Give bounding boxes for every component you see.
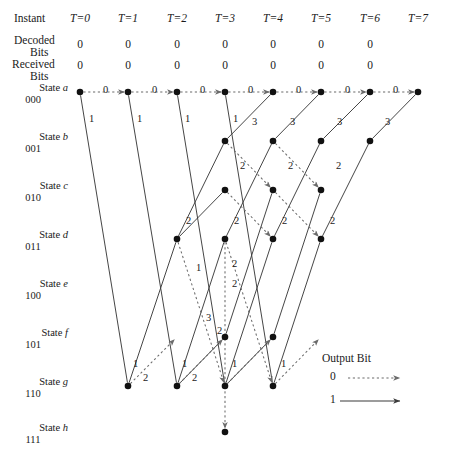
decoded-bit-5: 0 — [297, 38, 345, 50]
trellis-node[interactable] — [174, 383, 181, 390]
metric-label-32: 1 — [281, 358, 286, 369]
metric-label-25: 3 — [206, 312, 211, 323]
received-bit-1: 0 — [104, 59, 152, 71]
legend-title: Output Bit — [322, 352, 371, 364]
metric-label-9: 1 — [185, 113, 190, 124]
trellis-edge — [275, 94, 318, 138]
state-bits-d: 011 — [0, 241, 68, 253]
time-column-header-1: T=1 — [104, 12, 152, 24]
trellis-node[interactable] — [318, 187, 325, 194]
state-bits-f: 101 — [0, 339, 68, 351]
state-name-f: State f — [41, 327, 68, 338]
received-bit-2: 0 — [153, 59, 201, 71]
legend-label-1: 1 — [330, 393, 336, 405]
state-name-c: State c — [40, 180, 68, 191]
trellis-node[interactable] — [125, 89, 132, 96]
legend-label-0: 0 — [330, 370, 336, 382]
metric-label-29: 1 — [182, 358, 187, 369]
state-label-f: State f101 — [0, 327, 68, 351]
metric-label-4: 0 — [296, 84, 301, 95]
metric-label-5: 0 — [345, 84, 350, 95]
state-label-c: State c010 — [0, 180, 68, 204]
metric-label-2: 0 — [200, 84, 205, 95]
metric-label-23: 2 — [232, 258, 237, 269]
metric-label-12: 3 — [290, 116, 295, 127]
trellis-node[interactable] — [222, 334, 229, 341]
time-column-header-3: T=3 — [201, 12, 249, 24]
metric-label-31: 1 — [232, 358, 237, 369]
trellis-node[interactable] — [270, 187, 277, 194]
time-column-header-4: T=4 — [249, 12, 297, 24]
time-column-header-7: T=7 — [394, 12, 442, 24]
trellis-node[interactable] — [174, 89, 181, 96]
metric-label-18: 2 — [186, 215, 191, 226]
metric-label-22: 1 — [196, 262, 201, 273]
decoded-bit-6: 0 — [346, 38, 394, 50]
metric-label-16: 2 — [288, 160, 293, 171]
state-name-h: State h — [39, 422, 68, 433]
trellis-node[interactable] — [318, 138, 325, 145]
decoded-bits-label-line1: Decoded — [14, 34, 55, 46]
trellis-node[interactable] — [222, 138, 229, 145]
trellis-node[interactable] — [222, 236, 229, 243]
metric-label-8: 1 — [137, 113, 142, 124]
trellis-node[interactable] — [222, 429, 229, 436]
trellis-node[interactable] — [270, 89, 277, 96]
trellis-node[interactable] — [318, 236, 325, 243]
time-column-header-6: T=6 — [346, 12, 394, 24]
decoded-bit-2: 0 — [153, 38, 201, 50]
metric-label-20: 2 — [282, 215, 287, 226]
trellis-edge — [323, 94, 367, 138]
received-bits-label-line2: Bits — [30, 70, 49, 82]
trellis-edge — [81, 95, 128, 382]
trellis-node[interactable] — [367, 138, 374, 145]
metric-label-30: 2 — [192, 372, 197, 383]
metric-label-24: 2 — [232, 278, 237, 289]
decoded-bit-0: 0 — [56, 38, 104, 50]
trellis-edge — [178, 95, 225, 382]
state-name-b: State b — [39, 131, 68, 142]
time-column-header-5: T=5 — [297, 12, 345, 24]
received-bit-6: 0 — [346, 59, 394, 71]
trellis-node[interactable] — [270, 334, 277, 341]
state-name-a: State a — [39, 82, 68, 93]
trellis-node[interactable] — [270, 138, 277, 145]
trellis-node[interactable] — [125, 383, 132, 390]
time-column-header-0: T=0 — [56, 12, 104, 24]
trellis-node[interactable] — [270, 236, 277, 243]
decoded-bit-4: 0 — [249, 38, 297, 50]
trellis-node[interactable] — [367, 89, 374, 96]
trellis-node[interactable] — [222, 187, 229, 194]
received-bit-4: 0 — [249, 59, 297, 71]
received-bit-3: 0 — [201, 59, 249, 71]
legend-arrows — [340, 378, 400, 401]
state-label-b: State b001 — [0, 131, 68, 155]
state-label-e: State e100 — [0, 278, 68, 302]
state-bits-c: 010 — [0, 192, 68, 204]
trellis-node[interactable] — [174, 236, 181, 243]
state-name-e: State e — [40, 278, 68, 289]
state-bits-a: 000 — [0, 94, 68, 106]
metric-label-11: 3 — [252, 116, 257, 127]
trellis-edge — [275, 143, 318, 187]
trellis-node[interactable] — [318, 89, 325, 96]
metric-label-14: 3 — [385, 116, 390, 127]
metric-label-0: 0 — [103, 84, 108, 95]
time-column-header-2: T=2 — [153, 12, 201, 24]
state-bits-e: 100 — [0, 290, 68, 302]
decoded-bits-label-line2: Bits — [30, 46, 49, 58]
trellis-node[interactable] — [77, 89, 84, 96]
metric-label-10: 1 — [233, 113, 238, 124]
trellis-node[interactable] — [222, 383, 229, 390]
trellis-node[interactable] — [222, 89, 229, 96]
metric-label-3: 0 — [248, 84, 253, 95]
trellis-figure: Instant Decoded Bits Received Bits T=0T=… — [0, 0, 452, 454]
metric-label-21: 2 — [330, 215, 335, 226]
state-name-d: State d — [39, 229, 68, 240]
metric-label-19: 2 — [234, 215, 239, 226]
trellis-node[interactable] — [415, 89, 422, 96]
trellis-node[interactable] — [270, 383, 277, 390]
received-bit-0: 0 — [56, 59, 104, 71]
state-label-h: State h111 — [0, 422, 68, 446]
trellis-edge — [372, 94, 415, 138]
